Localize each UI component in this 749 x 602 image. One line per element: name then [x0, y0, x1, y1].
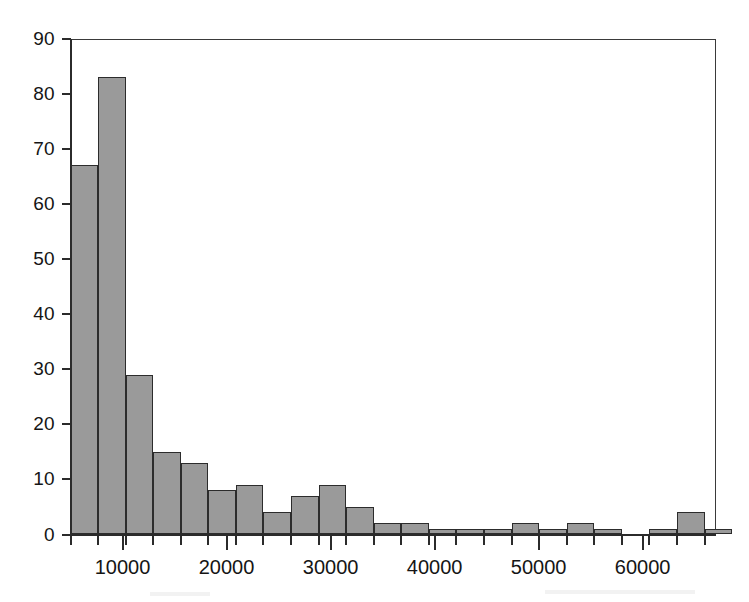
y-tick-mark: [62, 478, 71, 480]
x-tick-mark-major: [642, 536, 645, 550]
histogram-bar: [512, 523, 540, 534]
scan-artifact: [545, 590, 695, 594]
y-tick-mark: [62, 93, 71, 95]
y-tick-mark: [62, 313, 71, 315]
histogram-bar: [649, 529, 677, 535]
histogram-figure: 0102030405060708090 10000200003000040000…: [0, 0, 749, 602]
x-tick-mark-minor: [400, 536, 402, 545]
x-tick-mark-major: [226, 536, 229, 550]
histogram-bar: [291, 496, 319, 535]
histogram-bar: [319, 485, 347, 535]
histogram-bar: [567, 523, 595, 534]
histogram-bar: [153, 452, 181, 535]
y-tick-label: 10: [9, 469, 55, 488]
y-tick-mark: [62, 258, 71, 260]
histogram-bar: [71, 165, 99, 534]
histogram-bar: [705, 529, 733, 535]
y-tick-mark: [62, 203, 71, 205]
y-tick-label: 60: [9, 194, 55, 213]
histogram-bar: [374, 523, 402, 534]
x-tick-mark-minor: [262, 536, 264, 545]
histogram-bar: [236, 485, 264, 535]
x-tick-mark-minor: [373, 536, 375, 545]
y-tick-label: 40: [9, 304, 55, 323]
x-tick-label: 10000: [63, 557, 183, 577]
x-tick-label: 40000: [375, 557, 495, 577]
y-tick-mark: [62, 423, 71, 425]
x-tick-mark-minor: [290, 536, 292, 545]
histogram-bar: [181, 463, 209, 535]
x-tick-mark-minor: [648, 536, 650, 545]
x-tick-mark-minor: [483, 536, 485, 545]
scan-artifact: [150, 592, 210, 596]
x-tick-mark-minor: [318, 536, 320, 545]
x-tick-mark-minor: [566, 536, 568, 545]
x-tick-mark-minor: [455, 536, 457, 545]
histogram-bar: [346, 507, 374, 535]
x-tick-mark-minor: [621, 536, 623, 545]
histogram-bar: [429, 529, 457, 535]
x-tick-mark-minor: [511, 536, 513, 545]
x-tick-mark-minor: [593, 536, 595, 545]
x-tick-label: 60000: [583, 557, 703, 577]
histogram-bar: [539, 529, 567, 535]
x-tick-mark-minor: [97, 536, 99, 545]
histogram-bar: [484, 529, 512, 535]
x-tick-mark-minor: [70, 536, 72, 545]
histogram-bar: [263, 512, 291, 534]
y-tick-mark: [62, 148, 71, 150]
x-tick-label: 30000: [271, 557, 391, 577]
x-tick-label: 20000: [167, 557, 287, 577]
x-tick-mark-major: [122, 536, 125, 550]
histogram-bar: [208, 490, 236, 534]
y-tick-label: 70: [9, 139, 55, 158]
y-tick-label: 50: [9, 249, 55, 268]
x-tick-mark-major: [330, 536, 333, 550]
x-tick-mark-major: [538, 536, 541, 550]
x-tick-mark-minor: [180, 536, 182, 545]
histogram-bar: [98, 77, 126, 534]
histogram-bar: [677, 512, 705, 534]
x-tick-mark-major: [434, 536, 437, 550]
y-tick-label: 30: [9, 359, 55, 378]
x-tick-mark-minor: [152, 536, 154, 545]
x-tick-mark-minor: [207, 536, 209, 545]
y-tick-mark: [62, 368, 71, 370]
y-tick-label: 80: [9, 84, 55, 103]
x-tick-mark-minor: [125, 536, 127, 545]
y-tick-mark: [62, 38, 71, 40]
y-tick-label: 0: [9, 525, 55, 544]
x-tick-mark-minor: [704, 536, 706, 545]
x-tick-mark-minor: [428, 536, 430, 545]
y-tick-label: 20: [9, 414, 55, 433]
histogram-bar: [401, 523, 429, 534]
histogram-bar: [456, 529, 484, 535]
x-tick-mark-minor: [345, 536, 347, 545]
y-tick-label: 90: [9, 29, 55, 48]
histogram-bar: [594, 529, 622, 535]
x-tick-label: 50000: [479, 557, 599, 577]
x-tick-mark-minor: [676, 536, 678, 545]
x-tick-mark-minor: [235, 536, 237, 545]
histogram-bar: [126, 375, 154, 535]
